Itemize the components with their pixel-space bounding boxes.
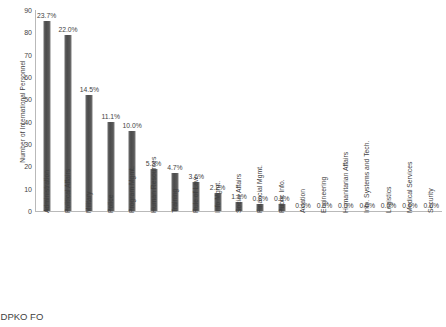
bar-chart-figure: Number of International Personnel 010203…	[0, 0, 446, 327]
bar-value-label: 10.0%	[123, 122, 142, 129]
bar-value-label: 22.0%	[58, 26, 77, 33]
bar-value-label: 11.1%	[101, 113, 120, 120]
x-axis-category-labels: AdministrationPolitical AffairsMilitaryP…	[35, 213, 441, 309]
x-axis-label-training: Training	[170, 189, 177, 213]
x-axis-label-engineering: Engineering	[320, 177, 327, 213]
x-axis-label-aviation: Aviation	[299, 189, 306, 213]
x-label-slot: Financial Mgmt.	[249, 213, 270, 309]
x-label-slot: Humanitarian Affairs	[334, 213, 355, 309]
x-label-slot: Administration	[35, 213, 56, 309]
bar-value-label: 23.7%	[37, 12, 56, 19]
x-axis-label-administration: Administration	[42, 170, 49, 213]
bar-slot: 0.0%	[292, 10, 313, 211]
x-axis-label-humanitarian-affairs: Humanitarian Affairs	[341, 152, 348, 213]
x-axis-label-military: Military	[85, 191, 92, 213]
y-axis-tick-30: 30	[24, 141, 32, 148]
x-axis-label-public-info: Public Info.	[277, 179, 284, 213]
x-label-slot: Program Mgmt.	[120, 213, 141, 309]
bar-slot: 0.0%	[421, 10, 442, 211]
y-axis-tick-90: 90	[24, 7, 32, 14]
x-label-slot: Social Affairs	[227, 213, 248, 309]
bar-slot: 14.5%	[79, 10, 100, 211]
bar-slot: 11.1%	[100, 10, 121, 211]
x-label-slot: Military	[78, 213, 99, 309]
x-axis-label-rule-of-law: Rule of Law	[192, 177, 199, 213]
y-axis-tick-80: 80	[24, 29, 32, 36]
y-axis-tick-0: 0	[28, 208, 32, 215]
x-label-slot: Engineering	[313, 213, 334, 309]
bar-slot: 0.0%	[378, 10, 399, 211]
x-label-slot: Rule of Law	[185, 213, 206, 309]
y-axis-tick-60: 60	[24, 74, 32, 81]
x-axis-label-political-affairs: Political Affairs	[64, 169, 71, 213]
x-axis-label-program-mgmt: Program Mgmt.	[128, 166, 135, 213]
y-axis-tick-70: 70	[24, 51, 32, 58]
y-axis-tick-labels: 0102030405060708090	[16, 0, 32, 220]
x-label-slot: Human Resources	[142, 213, 163, 309]
x-axis-label-info-systems-and-tech: Info. Systems and Tech.	[363, 141, 370, 213]
x-axis-label-police: Police	[106, 194, 113, 213]
bar-value-label: 14.5%	[80, 86, 99, 93]
y-axis-tick-10: 10	[24, 185, 32, 192]
x-axis-label-human-resources: Human Resources	[149, 157, 156, 213]
source-caption: e: DPKO FO	[0, 311, 43, 322]
bar-slot: 4.7%	[164, 10, 185, 211]
x-axis-label-logistics: Logistics	[384, 187, 391, 213]
x-axis-label-security: Security	[427, 188, 434, 213]
x-label-slot: Political Affairs	[56, 213, 77, 309]
x-label-slot: Info Mgmt.	[206, 213, 227, 309]
x-label-slot: Aviation	[291, 213, 312, 309]
x-label-slot: Public Info.	[270, 213, 291, 309]
x-axis-label-info-mgmt: Info Mgmt.	[213, 181, 220, 213]
x-label-slot: Info. Systems and Tech.	[356, 213, 377, 309]
x-label-slot: Security	[420, 213, 441, 309]
bar-value-label: 4.7%	[167, 164, 183, 171]
x-label-slot: Medical Services	[398, 213, 419, 309]
x-label-slot: Logistics	[377, 213, 398, 309]
x-label-slot: Police	[99, 213, 120, 309]
x-label-slot: Training	[163, 213, 184, 309]
x-axis-label-financial-mgmt: Financial Mgmt.	[256, 165, 263, 213]
x-axis-label-social-affairs: Social Affairs	[234, 174, 241, 213]
y-axis-tick-40: 40	[24, 118, 32, 125]
x-axis-label-medical-services: Medical Services	[405, 162, 412, 213]
y-axis-tick-20: 20	[24, 163, 32, 170]
y-axis-tick-50: 50	[24, 96, 32, 103]
